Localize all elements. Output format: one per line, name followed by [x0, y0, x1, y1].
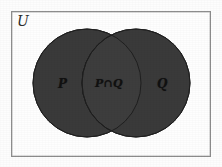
set-label-p: P [58, 78, 67, 90]
set-label-intersection: P∩Q [95, 78, 123, 89]
set-label-q: Q [157, 78, 167, 90]
venn-diagram-figure: U P P∩Q Q [0, 0, 222, 167]
